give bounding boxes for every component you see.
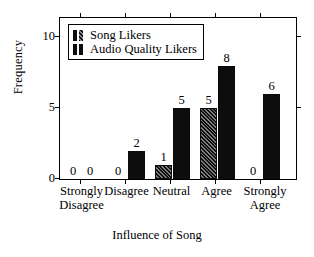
x-category-label-disagree: Disagree xyxy=(104,184,148,198)
value-label-song-likers-disagree: 0 xyxy=(115,165,121,178)
value-label-audio-quality-likers-disagree: 2 xyxy=(133,137,139,150)
x-category-label-strongly-disagree: Strongly Disagree xyxy=(59,184,103,212)
x-category-line-1: Neutral xyxy=(153,184,190,198)
bar-song-likers-agree xyxy=(200,108,217,179)
x-category-label-strongly-agree: Strongly Agree xyxy=(243,184,286,212)
value-label-audio-quality-likers-strongly-agree: 6 xyxy=(268,80,274,93)
legend-swatch-solid-icon xyxy=(73,44,86,55)
bar-audio-quality-likers-strongly-agree xyxy=(263,94,280,179)
x-category-label-agree: Agree xyxy=(201,184,232,198)
value-label-song-likers-agree: 5 xyxy=(205,94,211,107)
y-tick-right-10 xyxy=(296,36,301,37)
bar-song-likers-neutral xyxy=(155,165,172,179)
bar-audio-quality-likers-neutral xyxy=(173,108,190,179)
legend-label-song-likers: Song Likers xyxy=(90,29,151,42)
y-tick-label-0: 0 xyxy=(49,171,55,186)
x-category-line-1: Strongly xyxy=(59,184,103,198)
value-label-song-likers-strongly-disagree: 0 xyxy=(70,165,76,178)
legend-entry-song-likers: Song Likers xyxy=(73,28,197,42)
value-label-song-likers-strongly-agree: 0 xyxy=(250,165,256,178)
value-label-song-likers-neutral: 1 xyxy=(160,151,166,164)
legend-entry-audio-quality-likers: Audio Quality Likers xyxy=(73,42,197,56)
y-tick-label-5: 5 xyxy=(49,100,55,115)
bar-audio-quality-likers-disagree xyxy=(128,151,145,179)
x-category-line-2: Agree xyxy=(243,198,286,212)
legend-swatch-hatch-icon xyxy=(73,30,86,41)
y-axis-title: Frequency xyxy=(11,11,29,123)
x-category-line-1: Strongly xyxy=(243,184,286,198)
y-tick-label-10: 10 xyxy=(42,29,55,44)
x-category-line-1: Agree xyxy=(201,184,232,198)
bar-chart-figure: Frequency 0 5 10 0 0 0 xyxy=(0,0,314,257)
x-category-label-neutral: Neutral xyxy=(153,184,190,198)
x-axis-title: Influence of Song xyxy=(0,228,314,243)
y-tick-right-5 xyxy=(296,107,301,108)
chart-legend: Song Likers Audio Quality Likers xyxy=(68,24,204,60)
x-category-line-2: Disagree xyxy=(59,198,103,212)
legend-label-audio-quality-likers: Audio Quality Likers xyxy=(90,43,197,56)
value-label-audio-quality-likers-strongly-disagree: 0 xyxy=(87,165,93,178)
plot-area: 0 5 10 0 0 0 2 xyxy=(59,17,297,180)
bar-audio-quality-likers-agree xyxy=(218,66,235,179)
value-label-audio-quality-likers-neutral: 5 xyxy=(178,94,184,107)
bar-group-strongly-agree: 0 6 xyxy=(240,18,285,179)
value-label-audio-quality-likers-agree: 8 xyxy=(223,52,229,65)
x-category-line-1: Disagree xyxy=(104,184,148,198)
